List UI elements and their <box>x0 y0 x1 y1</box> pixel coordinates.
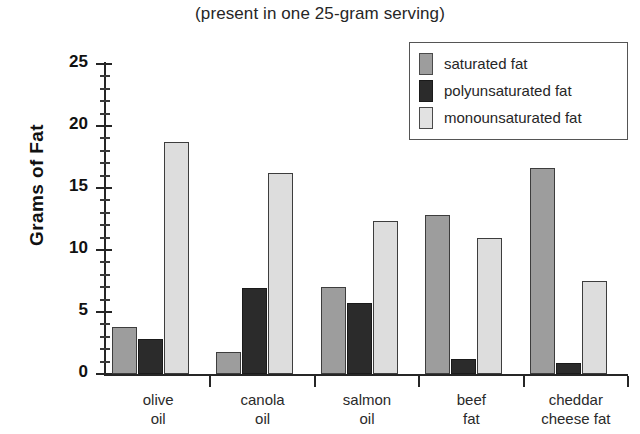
bar <box>425 215 450 374</box>
bar <box>347 303 372 374</box>
category-label-line: oil <box>315 409 419 428</box>
legend-item: monounsaturated fat <box>419 104 618 131</box>
bar <box>530 168 555 374</box>
category-label-line: oil <box>106 409 210 428</box>
category-label-line: canola <box>210 390 314 409</box>
bar <box>321 287 346 374</box>
legend-item: saturated fat <box>419 50 618 77</box>
legend-item: polyunsaturated fat <box>419 77 618 104</box>
legend-swatch-polyunsaturated-fat <box>419 80 433 102</box>
x-axis-category-label: oliveoil <box>106 390 210 428</box>
category-label-line: olive <box>106 390 210 409</box>
bar <box>112 327 137 374</box>
category-label-line: beef <box>419 390 523 409</box>
category-label-line: cheddar <box>524 390 628 409</box>
x-axis-category-label: salmonoil <box>315 390 419 428</box>
bar <box>268 173 293 374</box>
legend-label: polyunsaturated fat <box>444 82 572 99</box>
x-axis-category-label: canolaoil <box>210 390 314 428</box>
legend-label: saturated fat <box>444 55 527 72</box>
bar <box>164 142 189 374</box>
bar <box>582 281 607 374</box>
bar <box>451 359 476 374</box>
x-axis-category-label: beeffat <box>419 390 523 428</box>
category-label-line: salmon <box>315 390 419 409</box>
category-label-line: oil <box>210 409 314 428</box>
bar <box>373 221 398 374</box>
legend-label: monounsaturated fat <box>444 109 582 126</box>
category-label-line: fat <box>419 409 523 428</box>
bar <box>242 288 267 374</box>
x-axis-category-label: cheddarcheese fat <box>524 390 628 428</box>
bar <box>216 352 241 374</box>
legend-swatch-monounsaturated-fat <box>419 107 433 129</box>
legend-swatch-saturated-fat <box>419 53 433 75</box>
chart-legend: saturated fat polyunsaturated fat monoun… <box>409 42 628 140</box>
bar <box>138 339 163 374</box>
bar <box>477 238 502 374</box>
category-label-line: cheese fat <box>524 409 628 428</box>
bar <box>556 363 581 374</box>
chart-figure: (present in one 25-gram serving) Grams o… <box>0 0 640 434</box>
